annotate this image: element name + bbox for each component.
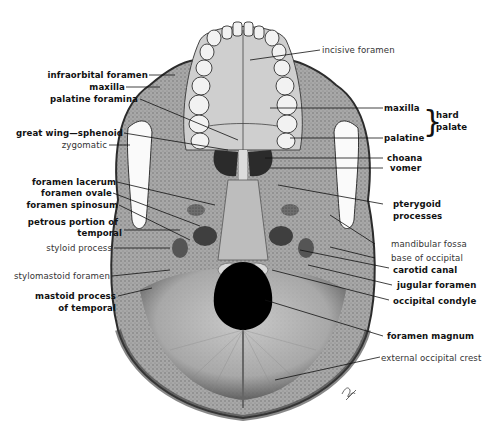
skull-diagram: infraorbital foramen maxilla palatine fo… — [0, 0, 483, 434]
label-occipital-condyle: occipital condyle — [393, 296, 476, 306]
label-jugular-foramen: jugular foramen — [397, 280, 476, 290]
label-incisive-foramen: incisive foramen — [322, 45, 395, 55]
label-styloid-process: styloid process — [46, 243, 112, 253]
label-vomer: vomer — [390, 163, 421, 173]
foramen-magnum-shape — [214, 262, 273, 330]
label-carotid-canal: carotid canal — [393, 265, 457, 275]
label-choana: choana — [387, 153, 422, 163]
label-external-occipital-crest: external occipital crest — [381, 353, 481, 363]
label-petrous-portion-line2: temporal — [77, 228, 122, 238]
label-hard-palate-line2: palate — [436, 122, 467, 132]
label-mastoid-process-line1: mastoid process — [35, 291, 116, 301]
label-palatine: palatine — [384, 133, 425, 143]
label-foramen-lacerum: foramen lacerum — [32, 177, 116, 187]
label-foramen-spinosum: foramen spinosum — [26, 200, 118, 210]
label-maxilla-left: maxilla — [89, 82, 125, 92]
label-infraorbital-foramen: infraorbital foramen — [47, 70, 148, 80]
label-zygomatic: zygomatic — [62, 140, 107, 150]
label-base-of-occipital: base of occipital — [391, 253, 463, 263]
label-maxilla-right: maxilla — [384, 103, 420, 113]
artist-signature — [342, 388, 356, 400]
skull-base — [111, 27, 375, 419]
label-pterygoid-line1: pterygoid — [393, 199, 441, 209]
label-palatine-foramina: palatine foramina — [50, 94, 138, 104]
label-foramen-ovale: foramen ovale — [41, 188, 112, 198]
label-foramen-magnum: foramen magnum — [387, 331, 474, 341]
label-mandibular-fossa: mandibular fossa — [391, 239, 467, 249]
label-hard-palate-line1: hard — [436, 110, 459, 120]
label-mastoid-process-line2: of temporal — [58, 303, 116, 313]
label-great-wing-sphenoid: great wing—sphenoid — [16, 128, 123, 138]
label-stylomastoid-foramen: stylomastoid foramen — [14, 271, 110, 281]
label-petrous-portion-line1: petrous portion of — [28, 217, 118, 227]
label-pterygoid-line2: processes — [393, 211, 442, 221]
